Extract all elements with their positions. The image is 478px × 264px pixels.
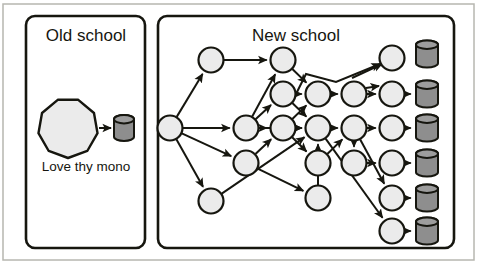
panel-title-old-school: Old school [46, 26, 126, 45]
service-node-n5 [271, 48, 296, 73]
datastore-d5-top [416, 218, 438, 226]
datastore-d3-top [416, 150, 438, 158]
panel-title-new-school: New school [252, 26, 340, 45]
monolith-caption: Love thy mono [42, 159, 131, 174]
service-node-n0 [158, 116, 183, 141]
service-node-n18 [380, 151, 405, 176]
diagram-figure: Old schoolNew schoolLove thy mono [0, 0, 478, 264]
datastore-d2-top [416, 115, 438, 123]
service-node-n1 [199, 48, 224, 73]
datastore-d5 [416, 218, 438, 245]
service-node-n11 [306, 186, 331, 211]
service-node-n13 [342, 116, 367, 141]
datastore-d2 [416, 115, 438, 142]
monolith-datastore-top [114, 115, 134, 123]
service-node-n15 [380, 46, 405, 71]
service-node-n14 [342, 151, 367, 176]
datastore-d4-top [416, 185, 438, 193]
monolith-octagon [38, 100, 97, 158]
old-vs-new-architecture-diagram: Old schoolNew schoolLove thy mono [0, 0, 478, 264]
service-node-n16 [380, 82, 405, 107]
service-node-n3 [234, 116, 259, 141]
service-node-n8 [306, 82, 331, 107]
service-node-n9 [306, 116, 331, 141]
service-node-n4 [234, 151, 259, 176]
datastore-d1-top [416, 81, 438, 89]
datastore-d4 [416, 185, 438, 212]
service-node-n19 [380, 186, 405, 211]
service-node-n20 [380, 219, 405, 244]
service-node-n12 [342, 82, 367, 107]
datastore-d0 [416, 41, 438, 68]
service-node-n17 [380, 116, 405, 141]
datastore-d0-top [416, 41, 438, 49]
datastore-d3 [416, 150, 438, 177]
monolith-datastore [114, 115, 134, 141]
service-node-n6 [271, 82, 296, 107]
service-node-n7 [271, 116, 296, 141]
service-node-n10 [306, 151, 331, 176]
service-node-n2 [199, 189, 224, 214]
datastore-d1 [416, 81, 438, 108]
